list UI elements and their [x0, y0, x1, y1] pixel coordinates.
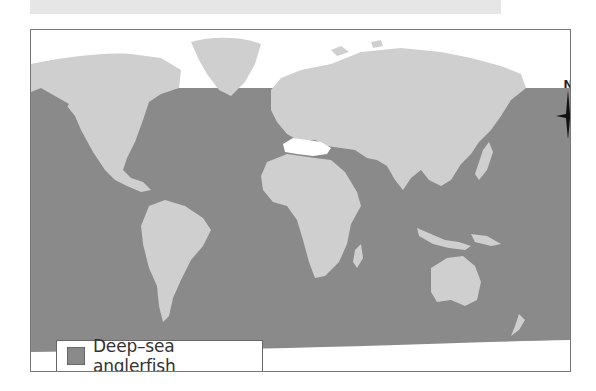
map-frame: N Deep–sea anglerfish — [30, 29, 571, 372]
north-arrow-icon — [554, 78, 571, 138]
compass: N — [554, 78, 571, 138]
top-banner — [30, 0, 501, 14]
world-map — [31, 30, 571, 372]
legend: Deep–sea anglerfish — [56, 340, 263, 372]
legend-label: Deep–sea anglerfish — [93, 336, 262, 372]
land-greenland — [191, 38, 261, 96]
legend-swatch-anglerfish — [67, 347, 85, 365]
